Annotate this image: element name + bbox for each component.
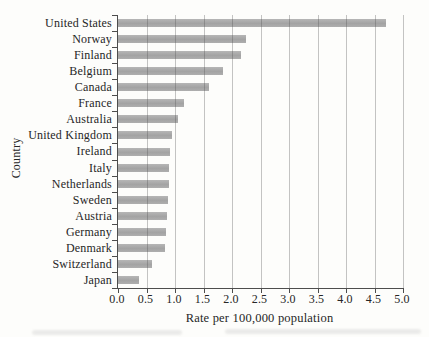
y-axis-tick	[112, 288, 117, 289]
category-label: Australia	[0, 111, 112, 127]
x-axis-tick-label: 4.0	[337, 292, 353, 307]
category-label: Finland	[0, 47, 112, 63]
bar-belgium	[118, 67, 223, 75]
y-axis-tick	[112, 176, 117, 177]
bar-canada	[118, 83, 209, 91]
x-axis-tick-label: 0.0	[109, 292, 125, 307]
scan-artifact	[32, 330, 182, 335]
bar-australia	[118, 115, 178, 123]
y-axis-tick	[112, 224, 117, 225]
y-axis-tick	[112, 79, 117, 80]
bar-japan	[118, 276, 139, 284]
category-label: France	[0, 95, 112, 111]
bar-denmark	[118, 244, 165, 252]
x-axis-tick-label: 1.0	[166, 292, 182, 307]
gridline	[147, 15, 148, 288]
x-axis-title: Rate per 100,000 population	[117, 311, 402, 326]
gridline	[375, 15, 376, 288]
gridline	[175, 15, 176, 288]
category-label: Switzerland	[0, 256, 112, 272]
y-axis-tick	[112, 272, 117, 273]
y-axis-category-labels: United StatesNorwayFinlandBelgiumCanadaF…	[0, 15, 112, 288]
category-label: Italy	[0, 160, 112, 176]
x-axis-tick-label: 0.5	[138, 292, 154, 307]
gridline	[318, 15, 319, 288]
category-label: Sweden	[0, 192, 112, 208]
bar-austria	[118, 212, 167, 220]
y-axis-tick	[112, 63, 117, 64]
x-axis-tick-label: 3.0	[280, 292, 296, 307]
bar-netherlands	[118, 180, 169, 188]
bar-germany	[118, 228, 166, 236]
bar-france	[118, 99, 184, 107]
bar-finland	[118, 51, 241, 59]
y-axis-tick	[112, 111, 117, 112]
category-label: Netherlands	[0, 176, 112, 192]
y-axis-tick	[112, 47, 117, 48]
x-axis-tick-label: 2.5	[252, 292, 268, 307]
category-label: United States	[0, 15, 112, 31]
category-label: Denmark	[0, 240, 112, 256]
y-axis-tick	[112, 240, 117, 241]
gridline	[261, 15, 262, 288]
x-axis-tick-label: 1.5	[195, 292, 211, 307]
category-label: United Kingdom	[0, 127, 112, 143]
y-axis-tick	[112, 143, 117, 144]
category-label: Belgium	[0, 63, 112, 79]
gridline	[346, 15, 347, 288]
category-label: Germany	[0, 224, 112, 240]
y-axis-tick	[112, 192, 117, 193]
x-axis-tick-label: 2.0	[223, 292, 239, 307]
x-axis-tick-label: 3.5	[309, 292, 325, 307]
bar-united-kingdom	[118, 131, 172, 139]
category-label: Japan	[0, 272, 112, 288]
bar-chart-figure: Country United StatesNorwayFinlandBelgiu…	[0, 0, 429, 337]
category-label: Canada	[0, 79, 112, 95]
plot-area	[117, 15, 403, 289]
gridline	[232, 15, 233, 288]
bar-sweden	[118, 196, 168, 204]
y-axis-tick	[112, 208, 117, 209]
category-label: Norway	[0, 31, 112, 47]
gridline	[204, 15, 205, 288]
scan-artifact	[225, 329, 421, 334]
x-axis-tick-label: 4.5	[366, 292, 382, 307]
y-axis-tick	[112, 31, 117, 32]
bar-norway	[118, 35, 246, 43]
category-label: Austria	[0, 208, 112, 224]
y-axis-tick	[112, 256, 117, 257]
y-axis-tick	[112, 127, 117, 128]
y-axis-tick	[112, 15, 117, 16]
category-label: Ireland	[0, 143, 112, 159]
y-axis-tick	[112, 160, 117, 161]
y-axis-tick	[112, 95, 117, 96]
bar-italy	[118, 164, 169, 172]
gridline	[289, 15, 290, 288]
gridline	[403, 15, 404, 288]
x-axis-tick-labels: 0.00.51.01.52.02.53.03.54.04.55.0	[117, 292, 402, 306]
bar-ireland	[118, 148, 170, 156]
x-axis-tick-label: 5.0	[394, 292, 410, 307]
